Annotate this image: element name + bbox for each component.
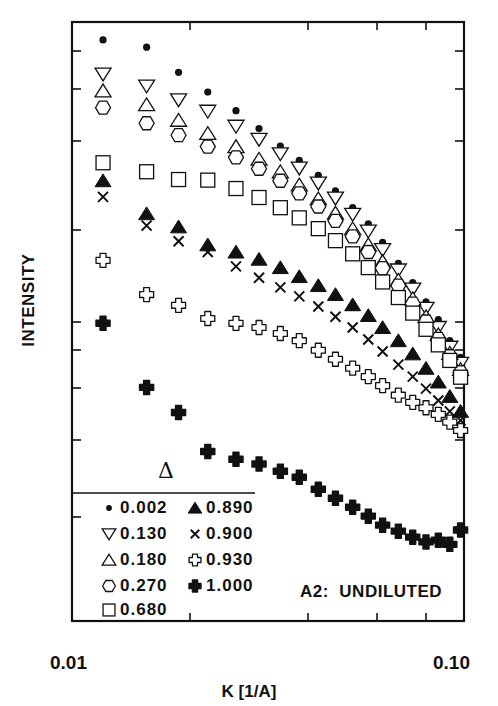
x-axis-label: K [1/A] — [0, 682, 498, 702]
legend-marker-filled-triangle-icon — [188, 502, 202, 513]
legend-label-0900: 0.900 — [206, 524, 254, 544]
legend-label-0130: 0.130 — [120, 524, 168, 544]
x-tick-label-max: 0.10 — [433, 652, 470, 674]
legend-marker-filled-circle-icon — [106, 505, 112, 511]
legend-label-0180: 0.180 — [120, 550, 168, 570]
legend-marker-up-triangle-icon — [102, 554, 116, 565]
legend-label-0002: 0.002 — [120, 498, 168, 518]
legend-label-1000: 1.000 — [206, 576, 254, 596]
x-tick-label-min: 0.01 — [50, 652, 87, 674]
legend-label-0270: 0.270 — [120, 576, 168, 596]
y-axis-label: INTENSITY — [14, 240, 44, 360]
legend-marker-hexagon-icon — [103, 580, 116, 591]
legend-title-delta: Δ — [158, 458, 174, 483]
legend-marker-cross-icon — [191, 530, 200, 539]
legend-marker-square-icon — [103, 604, 115, 616]
legend-label-0890: 0.890 — [206, 498, 254, 518]
legend-marker-filled-cross-icon — [189, 580, 201, 592]
data-points — [95, 36, 469, 551]
legend-label-0680: 0.680 — [120, 600, 168, 620]
legend-marker-down-triangle-icon — [102, 529, 116, 540]
legend-marker-open-cross-icon — [189, 554, 201, 566]
sample-annotation: A2: UNDILUTED — [300, 582, 442, 602]
legend-label-0930: 0.930 — [206, 550, 254, 570]
